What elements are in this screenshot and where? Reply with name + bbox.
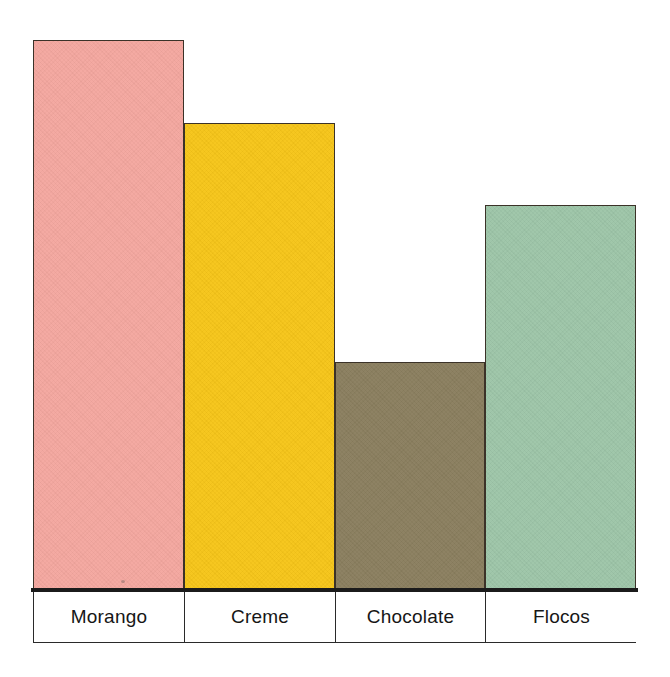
bar-chocolate xyxy=(335,362,485,592)
category-cell-flocos: Flocos xyxy=(486,592,637,642)
bar-flocos xyxy=(485,205,636,592)
category-cell-creme: Creme xyxy=(185,592,336,642)
scan-speck xyxy=(121,580,125,583)
category-label-morango: Morango xyxy=(71,606,147,628)
bar-creme xyxy=(184,123,335,592)
category-label-row: Morango Creme Chocolate Flocos xyxy=(33,592,636,643)
category-label-flocos: Flocos xyxy=(533,606,590,628)
category-cell-morango: Morango xyxy=(34,592,185,642)
category-label-chocolate: Chocolate xyxy=(367,606,454,628)
plot-area xyxy=(33,30,636,592)
category-label-creme: Creme xyxy=(231,606,289,628)
bar-morango xyxy=(33,40,184,592)
category-cell-chocolate: Chocolate xyxy=(336,592,486,642)
bar-chart-figure: Morango Creme Chocolate Flocos xyxy=(0,0,670,677)
